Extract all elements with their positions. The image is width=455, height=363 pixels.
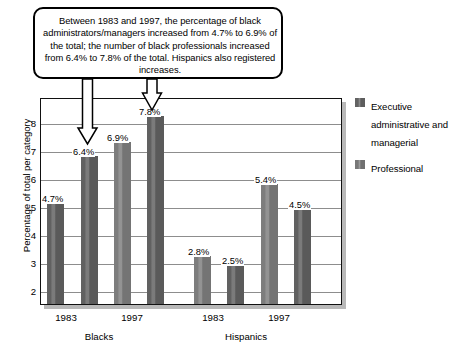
y-tick-3: 3 xyxy=(20,259,36,269)
group-label-blacks: Blacks xyxy=(59,331,139,342)
bar-hispanics-1997-prof xyxy=(294,209,311,304)
bar-hispanics-1983-prof xyxy=(227,265,244,304)
x-tick-hispanics-1997: 1997 xyxy=(259,312,299,323)
group-label-hispanics: Hispanics xyxy=(206,331,286,342)
y-tick-4: 4 xyxy=(20,231,36,241)
x-tick-blacks-1983: 1983 xyxy=(46,312,86,323)
gridline-8 xyxy=(41,124,341,125)
bar-value-blacks-1983-exec: 4.7% xyxy=(41,194,64,204)
bar-value-blacks-1997-prof: 7.8% xyxy=(138,107,161,117)
legend-label-executive: Executive administrative and managerial xyxy=(371,101,448,148)
legend-swatch-icon-professional xyxy=(355,160,365,169)
bar-value-hispanics-1997-exec: 5.4% xyxy=(254,175,277,185)
legend-label-professional: Professional xyxy=(371,163,423,174)
bar-blacks-1983-exec xyxy=(47,203,64,304)
bar-hispanics-1997-exec xyxy=(261,184,278,304)
bar-blacks-1997-exec xyxy=(114,142,131,304)
bar-value-hispanics-1997-prof: 4.5% xyxy=(288,200,311,210)
callout-box: Between 1983 and 1997, the percentage of… xyxy=(33,7,283,79)
bar-blacks-1983-prof xyxy=(81,156,98,304)
x-tick-blacks-1997: 1997 xyxy=(112,312,152,323)
bar-blacks-1997-prof xyxy=(147,116,164,304)
y-axis-label: Percentage of total per category xyxy=(21,86,32,286)
legend-item-professional: Professional xyxy=(355,158,453,176)
bar-value-blacks-1983-prof: 6.4% xyxy=(72,147,95,157)
bar-value-hispanics-1983-exec: 2.8% xyxy=(187,247,210,257)
legend-item-executive: Executive administrative and managerial xyxy=(355,96,453,150)
legend-swatch-icon-executive xyxy=(355,98,365,107)
y-tick-2: 2 xyxy=(20,287,36,297)
bar-hispanics-1983-exec xyxy=(194,256,211,304)
x-tick-hispanics-1983: 1983 xyxy=(193,312,233,323)
y-tick-6: 6 xyxy=(20,175,36,185)
y-tick-8: 8 xyxy=(20,119,36,129)
bar-value-blacks-1997-exec: 6.9% xyxy=(106,133,129,143)
legend: Executive administrative and managerial … xyxy=(355,96,453,184)
chart-figure: Between 1983 and 1997, the percentage of… xyxy=(0,0,455,363)
callout-text: Between 1983 and 1997, the percentage of… xyxy=(43,15,277,76)
bar-value-hispanics-1983-prof: 2.5% xyxy=(221,256,244,266)
y-tick-5: 5 xyxy=(20,203,36,213)
y-tick-7: 7 xyxy=(20,147,36,157)
